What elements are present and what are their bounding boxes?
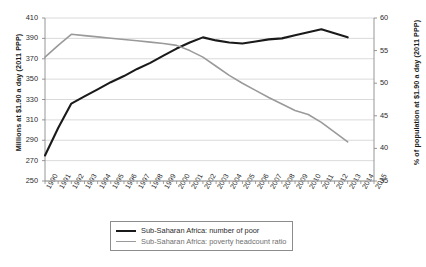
chart-container: Millions at $1.90 a day (2011 PPP) % of … bbox=[0, 0, 426, 267]
legend-item-label: Sub-Saharan Africa: number of poor bbox=[141, 226, 259, 235]
axis-lines bbox=[42, 18, 377, 184]
legend-line-swatch-light bbox=[116, 241, 136, 242]
series-line bbox=[45, 34, 348, 142]
data-series bbox=[45, 29, 348, 155]
legend-line-swatch-dark bbox=[116, 230, 136, 232]
legend-item-headcount-ratio: Sub-Saharan Africa: poverty headcount ra… bbox=[116, 236, 286, 247]
series-line bbox=[45, 29, 348, 155]
legend-item-number-of-poor: Sub-Saharan Africa: number of poor bbox=[116, 225, 286, 236]
legend-item-label: Sub-Saharan Africa: poverty headcount ra… bbox=[141, 237, 286, 246]
legend: Sub-Saharan Africa: number of poor Sub-S… bbox=[110, 221, 293, 251]
gridlines bbox=[45, 18, 374, 181]
